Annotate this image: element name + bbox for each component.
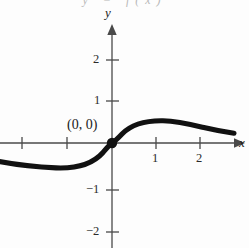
- y-tick-label-neg1: −1: [86, 183, 99, 196]
- graph-figure: y = f(x) y x 2 1 −1: [0, 0, 249, 248]
- y-tick-label-1: 1: [94, 94, 100, 107]
- y-tick-label-neg2: −2: [86, 225, 99, 238]
- y-axis-arrowhead: [107, 24, 116, 35]
- x-tick-label-2: 2: [196, 152, 202, 165]
- plot-canvas: [0, 0, 249, 248]
- origin-point-label: (0, 0): [67, 118, 97, 132]
- origin-point-marker: [107, 138, 117, 148]
- y-axis-label: y: [105, 6, 111, 19]
- y-tick-label-2: 2: [93, 53, 99, 66]
- x-axis-label: x: [239, 136, 245, 149]
- x-tick-label-1: 1: [152, 152, 158, 165]
